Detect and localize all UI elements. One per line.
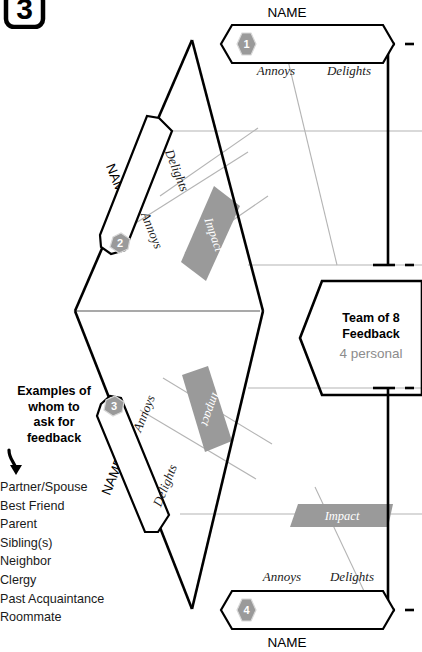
list-item: Past Acquaintance [0, 590, 124, 609]
examples-heading-line-3: ask for [0, 415, 108, 431]
impact-bar-2: Impact [181, 186, 240, 281]
right-edge-ticks [405, 44, 418, 610]
section-4[interactable]: 4 NAME Annoys Delights [221, 569, 394, 650]
section-2-annoys-label: Annoys [138, 209, 167, 251]
arrow-wrap [0, 448, 108, 474]
list-item: Neighbor [0, 552, 124, 571]
center-box-line1: Team of 8 [342, 311, 399, 325]
step-marker-icon: 3 [3, 0, 48, 29]
list-item: Partner/Spouse [0, 478, 124, 497]
step-marker-number: 3 [16, 0, 33, 25]
diagram-page: Impact Impact Impact [0, 0, 422, 652]
list-item: Clergy [0, 571, 124, 590]
examples-heading-line-2: whom to [0, 400, 108, 416]
list-item: Best Friend [0, 497, 124, 516]
section-4-delights-label: Delights [329, 569, 374, 584]
section-2-badge-number: 2 [117, 237, 123, 249]
list-item: Sibling(s) [0, 534, 124, 553]
impact-label-4: Impact [324, 509, 360, 523]
section-2[interactable]: NAME 2 Annoys Delights [100, 116, 192, 254]
examples-list: Partner/Spouse Best Friend Parent Siblin… [0, 478, 124, 627]
section-4-annoys-label: Annoys [262, 569, 301, 584]
examples-heading: Examples of whom to ask for feedback [0, 384, 108, 446]
list-item: Roommate [0, 608, 124, 627]
list-item: Parent [0, 515, 124, 534]
center-box-line2: Feedback [342, 327, 400, 341]
examples-heading-line-1: Examples of [0, 384, 108, 400]
section-4-badge-number: 4 [243, 604, 250, 616]
impact-bar-4: Impact [290, 504, 393, 527]
section-1-annoys-label: Annoys [256, 63, 295, 78]
examples-heading-line-4: feedback [0, 431, 108, 447]
examples-annotation: Examples of whom to ask for feedback Par… [0, 384, 124, 627]
center-box-line3: 4 personal [339, 346, 402, 361]
curved-down-arrow-icon [0, 448, 30, 476]
section-3-annoys-label: Annoys [129, 393, 158, 435]
section-1-delights-label: Delights [326, 63, 371, 78]
section-1[interactable]: NAME 1 Annoys Delights [221, 5, 394, 78]
center-feedback-box[interactable]: Team of 8 Feedback 4 personal [300, 281, 422, 395]
section-1-name-label: NAME [267, 5, 306, 20]
section-2-delights-label: Delights [162, 146, 193, 193]
section-4-name-label: NAME [267, 635, 306, 650]
section-1-badge-number: 1 [243, 38, 249, 50]
